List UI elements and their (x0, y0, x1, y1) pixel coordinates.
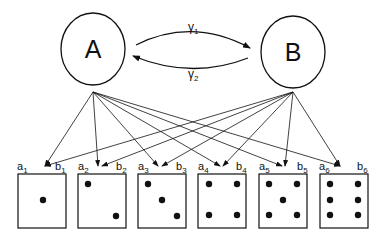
svg-text:a5: a5 (259, 160, 270, 175)
die-face-4: a4 b4 (198, 160, 247, 228)
svg-text:a1: a1 (17, 160, 28, 175)
svg-text:a2: a2 (78, 160, 89, 175)
svg-text:b2: b2 (116, 160, 127, 175)
svg-text:b3: b3 (176, 160, 187, 175)
svg-text:a4: a4 (198, 160, 209, 175)
hmm-dice-diagram: A B γ1 γ2 a1 b1 a2 b2 (0, 0, 383, 238)
emission-arrows-a (45, 92, 340, 166)
gamma2-label: γ2 (188, 67, 199, 83)
state-a-label: A (85, 35, 102, 63)
state-b-node: B (261, 16, 325, 88)
svg-text:b5: b5 (297, 160, 308, 175)
svg-text:b1: b1 (55, 160, 66, 175)
die-face-3: a3 b3 (138, 160, 187, 228)
svg-text:b4: b4 (236, 160, 247, 175)
svg-text:b6: b6 (357, 160, 368, 175)
die-face-6: a6 b6 (319, 160, 368, 228)
emission-arrows-b (45, 92, 340, 166)
state-b-label: B (285, 38, 302, 66)
state-a-node: A (61, 13, 125, 85)
die-face-5: a5 b5 (259, 160, 308, 228)
gamma1-label: γ1 (188, 20, 199, 36)
svg-text:a3: a3 (138, 160, 149, 175)
transition-a-to-b-arrow (136, 32, 250, 48)
die-face-2: a2 b2 (78, 160, 127, 228)
die-face-1: a1 b1 (17, 160, 66, 228)
